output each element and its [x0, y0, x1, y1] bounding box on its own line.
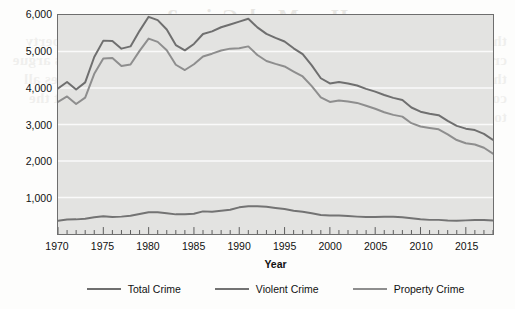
chart-svg: [58, 15, 493, 234]
y-tick-label: 5,000: [6, 46, 52, 56]
legend-line-icon: [353, 288, 387, 290]
y-axis: 6,0005,0004,0003,0002,0001,000: [0, 14, 52, 235]
legend-item[interactable]: Total Crime: [87, 283, 181, 295]
y-tick-label: 6,000: [6, 9, 52, 19]
x-axis: 1970197519801985199019952000200520102015: [57, 240, 494, 256]
legend-label: Property Crime: [394, 283, 465, 295]
legend-label: Total Crime: [128, 283, 181, 295]
plot-area: [57, 14, 494, 235]
x-tick-label: 1970: [45, 240, 68, 252]
y-tick-label: 2,000: [6, 156, 52, 166]
legend-line-icon: [215, 288, 249, 290]
x-tick-label: 2015: [455, 240, 478, 252]
y-tick-label: 3,000: [6, 120, 52, 130]
x-tick-label: 2010: [409, 240, 432, 252]
x-tick-label: 1975: [91, 240, 114, 252]
series-line-violent-crime: [58, 206, 493, 220]
y-tick-label: 1,000: [6, 193, 52, 203]
x-axis-title: Year: [57, 258, 494, 270]
chart-page: How Much Crime? the crime rate has been …: [0, 0, 515, 309]
legend-label: Violent Crime: [256, 283, 319, 295]
legend-item[interactable]: Violent Crime: [215, 283, 319, 295]
x-tick-label: 2005: [364, 240, 387, 252]
legend-line-icon: [87, 288, 121, 290]
legend-item[interactable]: Property Crime: [353, 283, 465, 295]
chart-legend: Total CrimeViolent CrimeProperty Crime: [57, 279, 494, 299]
x-tick-label: 2000: [318, 240, 341, 252]
series-line-total-crime: [58, 17, 493, 140]
x-tick-label: 1985: [182, 240, 205, 252]
x-tick-label: 1995: [273, 240, 296, 252]
x-tick-label: 1990: [227, 240, 250, 252]
series-line-property-crime: [58, 39, 493, 154]
y-tick-label: 4,000: [6, 83, 52, 93]
x-tick-label: 1980: [136, 240, 159, 252]
